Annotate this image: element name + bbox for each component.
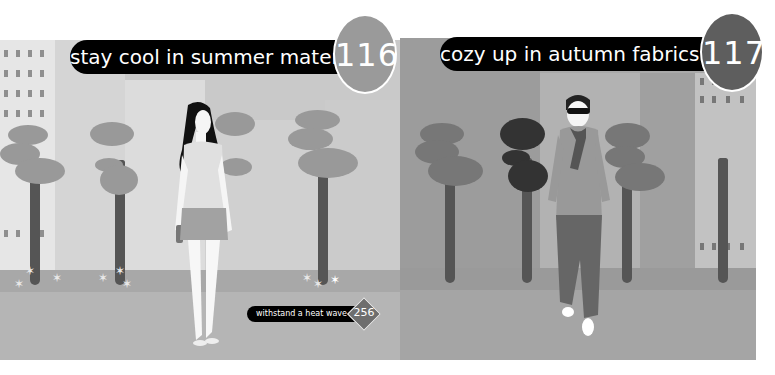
caption-bar-autumn: cozy up in autumn fabrics [440, 37, 710, 71]
caption-bar-summer: stay cool in summer material [70, 40, 345, 74]
sub-caption-bar: withstand a heat wave [247, 306, 359, 322]
woman-figure [170, 100, 240, 355]
man-figure [540, 90, 620, 350]
sub-caption-number: 256 [350, 305, 378, 321]
page-number-badge-summer: 116 [333, 14, 397, 94]
page-number-badge-autumn: 117 [700, 12, 764, 92]
autumn-scene [400, 38, 756, 360]
